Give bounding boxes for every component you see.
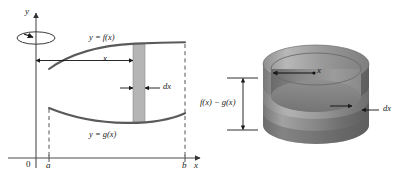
y-axis-label: y bbox=[25, 7, 29, 16]
upper-curve-label: y = f(x) bbox=[89, 33, 115, 42]
shell-radius-label-x: x bbox=[317, 66, 321, 75]
lower-curve-g bbox=[49, 108, 185, 123]
radius-label-x: x bbox=[103, 54, 107, 63]
origin-label: 0 bbox=[26, 160, 31, 169]
right-panel-shell bbox=[227, 45, 379, 144]
shell-thickness-label-dx: dx bbox=[383, 104, 391, 113]
thickness-label-dx: dx bbox=[163, 82, 171, 91]
tick-label-b: b bbox=[182, 161, 187, 170]
figure-canvas bbox=[0, 0, 407, 191]
lower-curve-label: y = g(x) bbox=[89, 130, 116, 139]
representative-strip bbox=[133, 44, 145, 122]
shell-method-figure: y x 0 a b y = f(x) y = g(x) x dx f(x) − … bbox=[0, 0, 407, 191]
tick-label-a: a bbox=[46, 161, 51, 170]
shell-height-label: f(x) − g(x) bbox=[200, 98, 235, 107]
x-axis-label: x bbox=[194, 161, 198, 170]
upper-curve-f bbox=[49, 42, 185, 69]
